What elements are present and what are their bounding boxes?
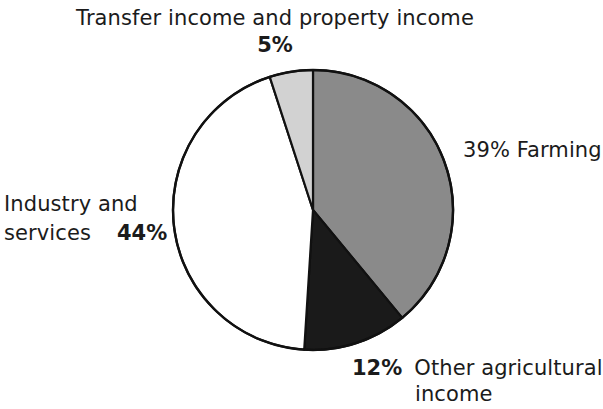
pie-chart-figure: Transfer income and property income 5% 3… bbox=[0, 0, 603, 409]
label-farming-text: 39% Farming bbox=[463, 138, 602, 162]
label-industry-services-percent: 44% bbox=[117, 221, 167, 245]
label-transfer-income-text: Transfer income and property income bbox=[75, 6, 475, 31]
label-industry-services-text: services bbox=[4, 221, 91, 245]
label-industry-services-line1: Industry and bbox=[4, 190, 167, 218]
label-other-agricultural-income: 12%Other agricultural income bbox=[352, 355, 603, 408]
label-transfer-income: Transfer income and property income 5% bbox=[75, 6, 475, 58]
label-other-agricultural-line2: income bbox=[415, 381, 603, 407]
label-transfer-income-percent: 5% bbox=[75, 33, 475, 58]
label-farming: 39% Farming bbox=[463, 138, 602, 163]
label-other-agricultural-percent: 12% bbox=[352, 356, 402, 380]
label-industry-services-line2: services44% bbox=[4, 219, 167, 247]
label-other-agricultural-row1: 12%Other agricultural bbox=[352, 356, 603, 380]
label-other-agricultural-line1: Other agricultural bbox=[414, 356, 602, 380]
label-industry-services: Industry and services44% bbox=[4, 190, 167, 248]
